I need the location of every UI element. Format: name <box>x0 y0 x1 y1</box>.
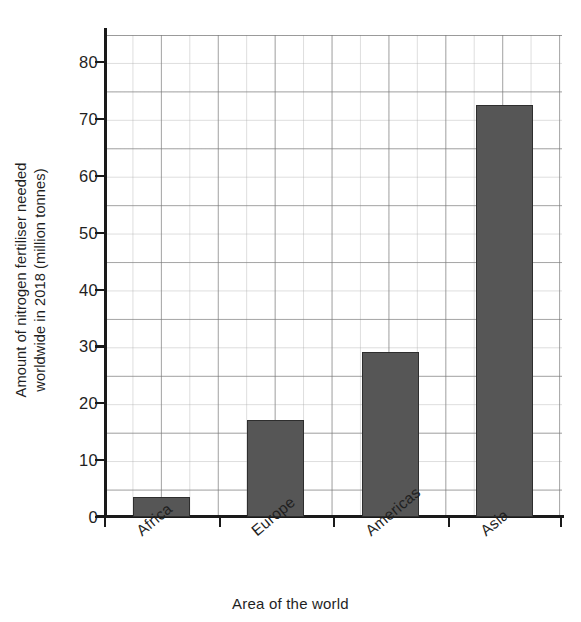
y-axis-line <box>104 28 107 518</box>
y-tick-mark <box>95 345 105 347</box>
x-axis-title: Area of the world <box>0 595 581 612</box>
plot-area <box>104 35 562 518</box>
y-axis-tick-labels: 01020304050607080 <box>62 0 98 622</box>
y-axis-title-line-1: Amount of nitrogen fertiliser needed <box>12 163 31 398</box>
grid-top-edge <box>104 35 562 36</box>
y-tick-mark <box>95 402 105 404</box>
y-tick-mark <box>95 459 105 461</box>
y-tick-mark <box>95 61 105 63</box>
y-tick-mark <box>95 289 105 291</box>
y-tick-mark <box>95 118 105 120</box>
bar-chart: Amount of nitrogen fertiliser needed wor… <box>0 0 581 622</box>
y-axis-title: Amount of nitrogen fertiliser needed wor… <box>0 30 62 530</box>
y-tick-mark <box>95 175 105 177</box>
y-axis-title-line-2: worldwide in 2018 (million tonnes) <box>31 163 50 398</box>
y-tick-mark <box>95 232 105 234</box>
bar-asia <box>476 105 533 517</box>
x-axis-category-labels: AfricaEuropeAmericasAsia <box>104 520 566 590</box>
